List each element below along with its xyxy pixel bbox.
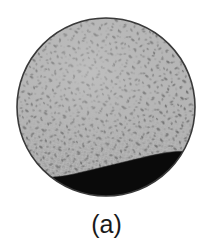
figure-panel: (a) [0, 0, 213, 245]
specimen-cross-section-image [0, 0, 213, 210]
figure-caption: (a) [0, 209, 213, 239]
